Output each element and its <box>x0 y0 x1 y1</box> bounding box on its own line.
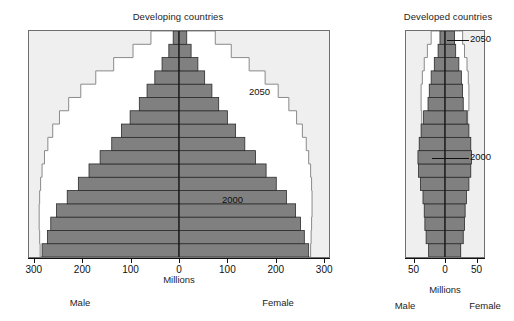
x-tick-100-2 <box>131 258 132 263</box>
x-tick-200-1 <box>82 258 83 263</box>
bar-2000-male-35-39 <box>100 151 179 164</box>
x-tick-200-5 <box>276 258 277 263</box>
bar-2000-female-40-44 <box>179 137 245 150</box>
leader-line-2050-developed <box>447 40 469 41</box>
bar-2000-male-70-74 <box>162 58 179 71</box>
x-ticklabel-1: 200 <box>62 264 102 275</box>
bar-2000-male-45-49 <box>121 124 179 137</box>
panel-title-developed: Developed countries <box>378 11 514 22</box>
bar-2000-female-10-14 <box>445 217 465 230</box>
bar-2000-male-65-69 <box>431 71 445 84</box>
bar-2000-female-60-64 <box>179 84 212 97</box>
x-tick-300-6 <box>324 258 325 263</box>
bar-2000-female-65-69 <box>445 71 461 84</box>
bar-2000-male-75-79 <box>169 44 179 57</box>
bar-2000-male-0-4 <box>429 244 445 257</box>
x-tick-50-2 <box>477 258 478 263</box>
bar-2000-female-35-39 <box>179 151 255 164</box>
bar-2000-male-55-59 <box>139 97 179 110</box>
bar-2000-male-15-19 <box>424 204 445 217</box>
annotation-2050-developed: 2050 <box>470 33 491 44</box>
annotation-2000-developed: 2000 <box>470 151 491 162</box>
x-tick-0-3 <box>179 258 180 263</box>
bar-2000-female-75-79 <box>445 44 456 57</box>
bar-2000-female-45-49 <box>179 124 236 137</box>
plot-area-developed <box>405 30 485 258</box>
bar-2000-female-15-19 <box>445 204 465 217</box>
bar-2000-male-0-4 <box>42 244 179 257</box>
pyramid-svg-developed <box>406 31 484 257</box>
bar-2000-male-25-29 <box>420 177 445 190</box>
male-label-developed: Male <box>375 300 435 311</box>
bar-2000-female-10-14 <box>179 217 300 230</box>
bar-2000-female-55-59 <box>179 97 219 110</box>
bar-2000-female-70-74 <box>179 58 198 71</box>
female-label-developing: Female <box>238 297 318 308</box>
male-label-developing: Male <box>40 297 120 308</box>
bar-2000-male-30-34 <box>419 164 445 177</box>
bar-2000-male-15-19 <box>57 204 179 217</box>
bar-2000-male-10-14 <box>51 217 179 230</box>
annotation-2000-developing: 2000 <box>222 194 243 205</box>
x-tick-100-4 <box>227 258 228 263</box>
bar-2000-male-40-44 <box>419 137 445 150</box>
bar-2000-male-45-49 <box>421 124 445 137</box>
bar-2000-female-25-29 <box>445 177 469 190</box>
bar-2000-female-5-9 <box>445 230 463 243</box>
bar-2000-female-55-59 <box>445 97 463 110</box>
pyramid-svg-developing <box>29 31 329 257</box>
bar-2000-female-20-24 <box>445 191 466 204</box>
bar-2000-male-80+ <box>440 31 445 44</box>
bar-2000-male-25-29 <box>78 177 179 190</box>
bar-2000-female-45-49 <box>445 124 469 137</box>
bar-2000-male-5-9 <box>47 230 179 243</box>
bar-2000-female-30-34 <box>179 164 266 177</box>
bar-2000-male-20-24 <box>423 191 445 204</box>
bar-2000-male-30-34 <box>89 164 179 177</box>
x-ticklabel-0: 300 <box>14 264 54 275</box>
bar-2000-female-5-9 <box>179 230 304 243</box>
bar-2000-male-80+ <box>173 31 179 44</box>
bar-2000-female-30-34 <box>445 164 471 177</box>
x-axis-title-developing: Millions <box>129 274 229 285</box>
bar-2000-female-65-69 <box>179 71 205 84</box>
bar-2000-female-0-4 <box>179 244 309 257</box>
bar-2000-female-15-19 <box>179 204 296 217</box>
bar-2000-female-80+ <box>445 31 454 44</box>
x-ticklabel-2: 50 <box>457 264 497 275</box>
bar-2000-male-55-59 <box>428 97 445 110</box>
bar-2000-female-80+ <box>179 31 187 44</box>
bar-2000-female-75-79 <box>179 44 191 57</box>
bar-2000-male-50-54 <box>130 111 179 124</box>
plot-area-developing <box>28 30 330 258</box>
leader-line-2000-developed <box>432 158 469 159</box>
x-tick-300-0 <box>34 258 35 263</box>
x-axis-title-developed: Millions <box>395 284 495 295</box>
bar-2000-male-70-74 <box>434 58 445 71</box>
x-ticklabel-6: 300 <box>304 264 344 275</box>
bar-2000-male-10-14 <box>425 217 445 230</box>
bar-2000-male-65-69 <box>155 71 179 84</box>
bar-2000-female-60-64 <box>445 84 463 97</box>
x-tick-50-0 <box>414 258 415 263</box>
bar-2000-female-40-44 <box>445 137 471 150</box>
female-label-developed: Female <box>455 300 514 311</box>
x-ticklabel-5: 200 <box>256 264 296 275</box>
bar-2000-female-25-29 <box>179 177 276 190</box>
bar-2000-female-70-74 <box>445 58 459 71</box>
bar-2000-male-75-79 <box>438 44 445 57</box>
bar-2000-male-50-54 <box>424 111 445 124</box>
bar-2000-male-5-9 <box>426 230 445 243</box>
bar-2000-male-60-64 <box>147 84 179 97</box>
bar-2000-male-40-44 <box>112 137 179 150</box>
bar-2000-male-20-24 <box>67 191 179 204</box>
bar-2000-male-60-64 <box>429 84 445 97</box>
panel-title-developing: Developing countries <box>88 11 268 22</box>
annotation-2050-developing: 2050 <box>249 86 270 97</box>
bar-2000-female-50-54 <box>179 111 227 124</box>
x-tick-0-1 <box>445 258 446 263</box>
bar-2000-female-50-54 <box>445 111 467 124</box>
bar-2000-female-0-4 <box>445 244 461 257</box>
